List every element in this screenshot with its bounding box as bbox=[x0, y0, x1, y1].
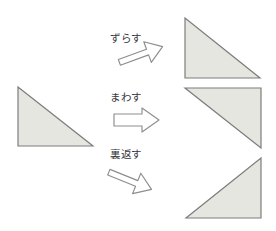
operation-label-rotate: まわす bbox=[110, 92, 142, 103]
operation-label-shift: ずらす bbox=[110, 33, 142, 44]
transformation-figure: ずらす まわす 裏返す bbox=[0, 0, 276, 231]
result-triangle-rotate bbox=[185, 88, 261, 148]
arrow-down-right-icon bbox=[105, 162, 156, 200]
result-triangle-shift bbox=[185, 18, 260, 78]
original-triangle bbox=[18, 87, 93, 146]
operation-label-flip: 裏返す bbox=[110, 149, 142, 160]
result-triangle-flip bbox=[186, 158, 261, 218]
arrow-right-icon bbox=[114, 108, 159, 132]
